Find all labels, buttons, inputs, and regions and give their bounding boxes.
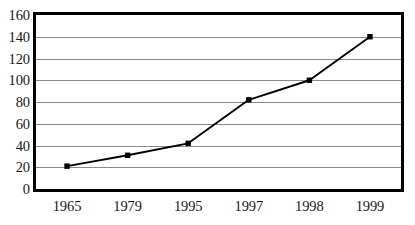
x-axis-tick-label: 1998 <box>295 198 324 214</box>
y-axis-tick-label: 80 <box>0 95 30 110</box>
y-axis-tick-label: 20 <box>0 160 30 175</box>
y-axis-tick-label: 0 <box>0 182 30 197</box>
data-point-marker <box>307 78 312 83</box>
y-axis-tick-labels: 020406080100120140160 <box>0 0 30 225</box>
data-point-marker <box>125 153 130 158</box>
data-point-marker <box>64 163 69 168</box>
y-axis-tick-label: 160 <box>0 8 30 23</box>
plot-area-frame <box>33 12 404 192</box>
x-axis-tick-label: 1997 <box>234 198 263 214</box>
y-axis-tick-label: 40 <box>0 138 30 153</box>
data-point-marker <box>367 34 372 39</box>
y-axis-tick-label: 120 <box>0 51 30 66</box>
x-axis-tick-label: 1979 <box>113 198 142 214</box>
x-axis-tick-label: 1965 <box>53 198 82 214</box>
data-point-marker <box>246 97 251 102</box>
y-axis-tick-label: 140 <box>0 30 30 45</box>
line-chart-figure: 020406080100120140160 196519791995199719… <box>0 0 415 225</box>
data-series-layer <box>36 15 401 189</box>
x-axis-tick-label: 1999 <box>356 198 385 214</box>
y-axis-tick-label: 100 <box>0 73 30 88</box>
x-axis-tick-label: 1995 <box>174 198 203 214</box>
x-axis-tick-labels: 196519791995199719981999 <box>33 198 404 220</box>
series-line <box>67 37 370 166</box>
y-axis-tick-label: 60 <box>0 117 30 132</box>
plot-inner <box>36 15 401 189</box>
data-point-marker <box>186 141 191 146</box>
clipped-title-fragment <box>100 0 220 2</box>
